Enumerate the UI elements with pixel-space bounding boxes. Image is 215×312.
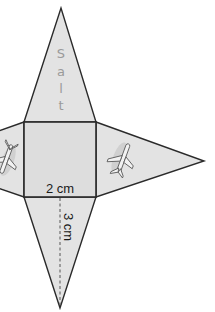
salt-letter-a: a (57, 64, 65, 79)
slant-height-label: 3 cm (61, 213, 76, 241)
pyramid-net-diagram: S a l t 2 cm 3 cm (0, 0, 215, 312)
salt-letter-l: l (59, 81, 63, 96)
salt-letter-t: t (58, 98, 63, 113)
bottom-triangle-face (24, 197, 96, 308)
base-length-label: 2 cm (46, 181, 74, 196)
salt-letter-s: S (57, 46, 65, 61)
